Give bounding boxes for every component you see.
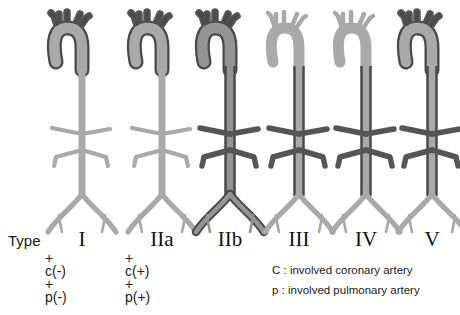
visceral-branch-left-upper-type-2a [132,128,162,134]
aorta-figure-type-5 [398,12,460,232]
iliac-left-type-1 [48,194,82,232]
aorta-figure-type-2b [196,12,264,232]
renal-branch-right-type-2a [162,150,188,166]
iliac-right-type-5 [432,194,460,232]
aorta-figure-type-3 [265,12,333,232]
renal-branch-right-type-1 [82,150,108,166]
renal-branch-left-type-1 [54,150,82,166]
aorta-figure-type-4 [332,12,400,232]
aorta-figure-type-1 [48,12,116,232]
iliac-left-type-5 [398,194,432,232]
aortic-dissection-diagram: Type IIIaIIbIIIIVV + c(-) + p(-)+ c(+) +… [0,0,460,315]
visceral-branch-right-upper-type-2a [162,129,190,134]
visceral-branch-right-upper-type-1 [82,129,110,134]
aortic-arch-type-4 [338,28,366,70]
iliac-left-type-3 [265,194,299,232]
iliac-left-type-4 [332,194,366,232]
iliac-right-type-1 [82,194,116,232]
aorta-figures-svg [0,0,460,315]
aortic-arch-type-3 [271,28,299,70]
visceral-branch-left-upper-type-1 [52,128,82,134]
aorta-figure-type-2a [128,12,196,232]
iliac-right-type-3 [299,194,333,232]
iliac-right-type-4 [366,194,400,232]
iliac-left-type-2a [128,194,162,232]
iliac-right-type-2a [162,194,196,232]
iliac-left-type-2b [196,194,230,232]
renal-branch-left-type-2a [134,150,162,166]
iliac-right-type-2b [230,194,264,232]
